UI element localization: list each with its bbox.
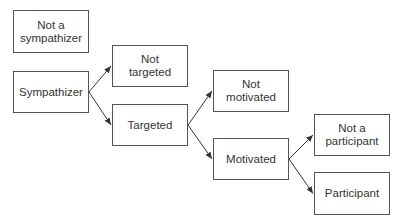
node-label: Sympathizer — [19, 86, 83, 99]
node-not-participant: Not a participant — [314, 114, 390, 156]
decision-tree-diagram: Not a sympathizer Sympathizer Not target… — [0, 0, 400, 224]
node-label: Not a participant — [325, 122, 378, 148]
arrow-sympathizer-to-targeted — [89, 92, 111, 125]
node-not-motivated: Not motivated — [213, 70, 289, 112]
arrow-motivated-to-participant — [289, 159, 313, 194]
node-label: Motivated — [226, 153, 276, 166]
node-label: Not a sympathizer — [20, 19, 82, 45]
node-label: Not targeted — [129, 53, 171, 79]
node-label: Targeted — [128, 119, 173, 132]
node-label: Not motivated — [226, 78, 276, 104]
node-not-sympathizer: Not a sympathizer — [13, 10, 89, 53]
node-not-targeted: Not targeted — [112, 45, 188, 87]
node-sympathizer: Sympathizer — [13, 71, 89, 113]
node-label: Participant — [325, 187, 379, 200]
arrow-sympathizer-to-not_targeted — [89, 66, 111, 92]
node-targeted: Targeted — [112, 104, 188, 146]
node-participant: Participant — [314, 172, 390, 215]
arrow-motivated-to-not_participant — [289, 135, 313, 159]
arrow-targeted-to-not_motivated — [188, 91, 212, 125]
arrow-targeted-to-motivated — [188, 125, 212, 159]
node-motivated: Motivated — [213, 138, 289, 180]
